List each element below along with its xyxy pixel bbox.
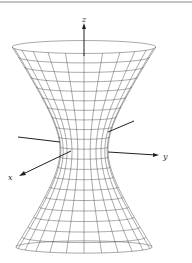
y-arrow-icon — [153, 153, 159, 157]
axes — [18, 23, 159, 176]
z-label: z — [81, 15, 87, 24]
hyperboloid-figure: z y x — [0, 0, 192, 263]
y-axis — [108, 152, 156, 155]
y-axis-neg — [18, 137, 60, 142]
y-label: y — [162, 152, 168, 161]
x-arrow-icon — [19, 171, 26, 176]
hyperboloid-mesh — [12, 41, 156, 254]
x-axis — [23, 151, 71, 174]
x-label: x — [8, 173, 13, 182]
